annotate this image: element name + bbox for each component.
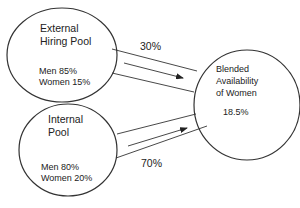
external-pool-women: Women 15% <box>39 77 90 88</box>
external-pool-title-line2: Hiring Pool <box>40 35 91 48</box>
blended-title-line2: Availability <box>216 75 258 87</box>
blended-title-line3: of Women <box>216 87 258 99</box>
external-edge-weight: 30% <box>140 40 161 52</box>
internal-pool-title-line1: Internal <box>48 113 83 126</box>
internal-edge-weight: 70% <box>141 157 162 169</box>
internal-pool-title-line2: Pool <box>48 126 83 139</box>
internal-channel-top-line <box>117 114 196 134</box>
blended-value: 18.5% <box>223 107 249 118</box>
external-pool-stats: Men 85% Women 15% <box>39 66 90 88</box>
blended-title-line1: Blended <box>216 63 258 75</box>
internal-pool-stats: Men 80% Women 20% <box>41 162 92 184</box>
internal-pool-women: Women 20% <box>41 173 92 184</box>
external-pool-men: Men 85% <box>39 66 90 77</box>
blended-title: Blended Availability of Women <box>216 63 258 99</box>
external-channel-top-line <box>112 49 197 71</box>
internal-pool-men: Men 80% <box>41 162 92 173</box>
external-pool-title: External Hiring Pool <box>40 22 91 48</box>
external-channel-bottom-line <box>112 73 194 92</box>
external-pool-title-line1: External <box>40 22 91 35</box>
internal-pool-title: Internal Pool <box>48 113 83 139</box>
